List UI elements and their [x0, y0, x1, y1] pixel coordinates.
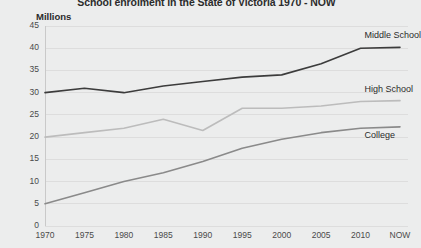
series-label-middle-school: Middle School	[365, 30, 421, 40]
series-label-high-school: High School	[365, 84, 414, 94]
series-line	[45, 101, 400, 137]
gridlines	[45, 26, 408, 226]
series-line	[45, 127, 400, 204]
series-label-college: College	[365, 130, 396, 140]
